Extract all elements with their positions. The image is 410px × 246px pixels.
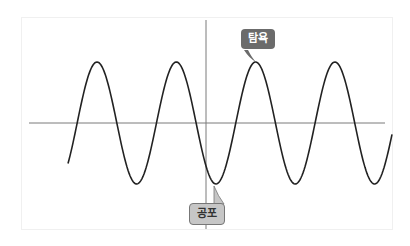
greed-callout-tail xyxy=(244,50,256,62)
fear-callout-tail xyxy=(214,186,224,204)
greed-callout: 탐욕 xyxy=(241,29,275,49)
fear-callout: 공포 xyxy=(189,203,225,225)
